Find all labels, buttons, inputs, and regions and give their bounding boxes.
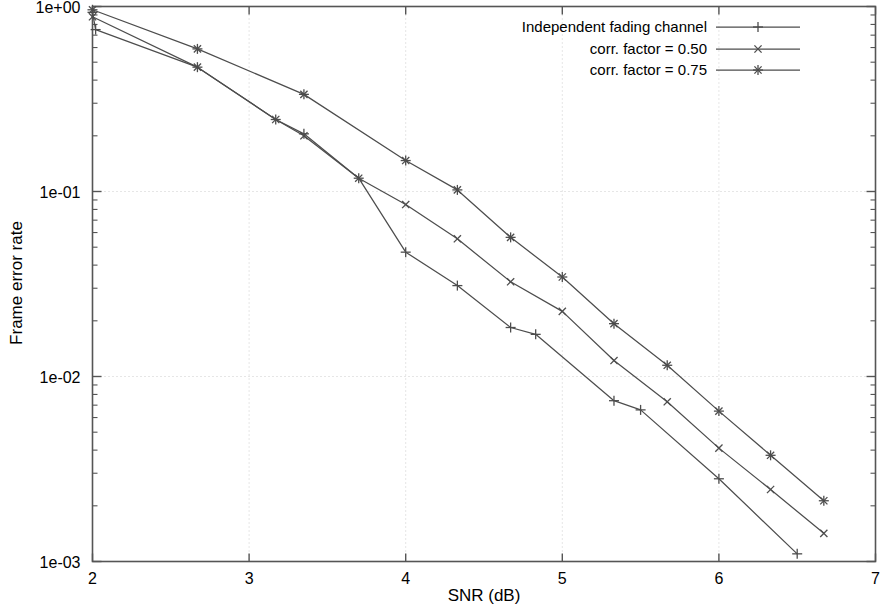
- legend-label-1: corr. factor = 0.50: [590, 40, 707, 57]
- chart-root: 2345671e+001e-011e-021e-03 Independent f…: [0, 0, 888, 611]
- y-axis-title: Frame error rate: [7, 221, 26, 345]
- legend-label-2: corr. factor = 0.75: [590, 61, 707, 78]
- y-tick-label: 1e-01: [40, 184, 81, 201]
- x-axis-title: SNR (dB): [448, 586, 521, 605]
- x-tick-label: 2: [88, 570, 97, 587]
- x-tick-label: 5: [558, 570, 567, 587]
- x-tick-label: 6: [714, 570, 723, 587]
- y-tick-label: 1e-02: [40, 369, 81, 386]
- y-tick-label: 1e+00: [36, 0, 81, 16]
- x-tick-label: 7: [871, 570, 880, 587]
- x-tick-label: 3: [245, 570, 254, 587]
- chart-background: [0, 0, 888, 611]
- x-tick-label: 4: [401, 570, 410, 587]
- legend-label-0: Independent fading channel: [522, 18, 707, 35]
- y-tick-label: 1e-03: [40, 554, 81, 571]
- frame-error-rate-chart: 2345671e+001e-011e-021e-03 Independent f…: [0, 0, 888, 611]
